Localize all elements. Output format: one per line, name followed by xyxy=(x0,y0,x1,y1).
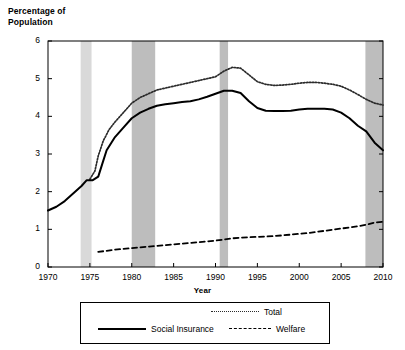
x-tick-label: 2010 xyxy=(363,272,403,282)
x-tick-label: 2005 xyxy=(321,272,361,282)
x-tick-label: 1995 xyxy=(237,272,277,282)
legend-item-welfare: Welfare xyxy=(229,324,305,334)
y-tick-label: 1 xyxy=(22,223,40,233)
legend-row-bottom: Social Insurance Welfare xyxy=(81,324,329,340)
x-tick-label: 1970 xyxy=(28,272,68,282)
x-tick-label: 2000 xyxy=(279,272,319,282)
y-tick-label: 2 xyxy=(22,186,40,196)
data-series xyxy=(48,67,383,252)
x-tick-label: 1975 xyxy=(70,272,110,282)
x-tick-label: 1990 xyxy=(196,272,236,282)
plot-area xyxy=(0,0,405,290)
legend-swatch-solid xyxy=(98,324,146,334)
legend-item-social-insurance: Social Insurance xyxy=(98,324,214,334)
legend-label-welfare: Welfare xyxy=(276,324,305,334)
y-axis-title-line2: Population xyxy=(8,17,53,27)
x-tick-label: 1985 xyxy=(154,272,194,282)
x-tick-label: 1980 xyxy=(112,272,152,282)
legend-swatch-dotted xyxy=(211,307,259,317)
chart-figure: Percentage of Population 0123456 1970197… xyxy=(0,0,405,350)
x-axis-title: Year xyxy=(0,285,405,296)
y-tick-label: 6 xyxy=(22,35,40,45)
legend-item-total: Total xyxy=(211,307,282,317)
y-tick-label: 3 xyxy=(22,148,40,158)
y-axis-title: Percentage of Population xyxy=(8,6,128,28)
y-tick-label: 0 xyxy=(22,261,40,271)
legend-label-total: Total xyxy=(264,307,282,317)
y-tick-label: 5 xyxy=(22,73,40,83)
chart-legend: Total Social Insurance Welfare xyxy=(80,302,330,344)
y-axis-title-line1: Percentage of xyxy=(8,6,66,16)
recession-bands xyxy=(81,41,383,267)
legend-label-social-insurance: Social Insurance xyxy=(151,324,214,334)
y-tick-label: 4 xyxy=(22,110,40,120)
legend-swatch-dashed xyxy=(229,324,271,334)
legend-row-top: Total xyxy=(81,307,329,323)
